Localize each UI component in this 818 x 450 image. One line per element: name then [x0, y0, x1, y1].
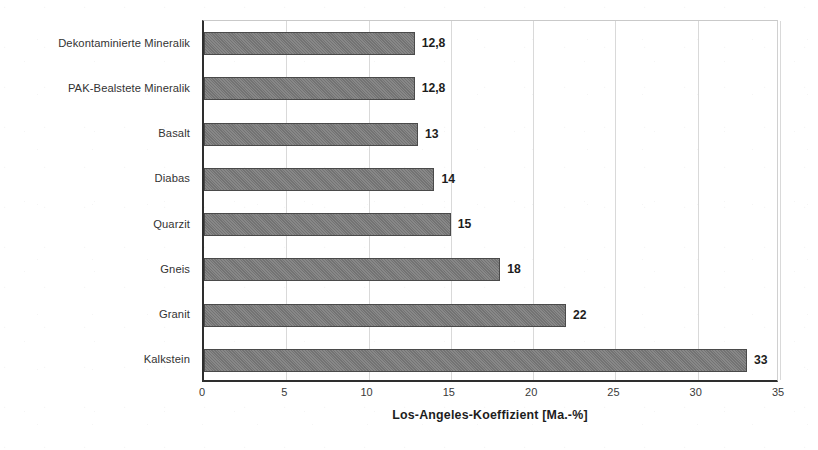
bar — [204, 123, 418, 146]
gridline — [698, 21, 699, 380]
gridline — [615, 21, 616, 380]
bar — [204, 213, 451, 236]
x-axis-tick-labels: 05101520253035 — [202, 386, 778, 404]
category-label: Quarzit — [153, 217, 190, 231]
bar-value-label: 13 — [425, 123, 439, 146]
category-label: Basalt — [158, 126, 190, 140]
bar — [204, 349, 747, 372]
category-label: PAK-Bealstete Mineralik — [68, 81, 190, 95]
x-tick-label: 35 — [772, 386, 784, 398]
bar — [204, 32, 415, 55]
bar-value-label: 33 — [754, 349, 768, 372]
category-label: Dekontaminierte Mineralik — [58, 36, 190, 50]
bar-value-label: 15 — [458, 213, 472, 236]
bar — [204, 77, 415, 100]
bar — [204, 168, 434, 191]
bar-value-label: 22 — [573, 304, 587, 327]
bar — [204, 258, 500, 281]
category-label: Kalkstein — [144, 352, 190, 366]
bar-value-label: 18 — [507, 258, 521, 281]
x-tick-label: 30 — [690, 386, 702, 398]
bar-value-label: 12,8 — [422, 77, 446, 100]
plot-area: 12,812,8131415182233 — [202, 20, 778, 382]
x-tick-label: 10 — [360, 386, 372, 398]
category-label: Gneis — [160, 262, 190, 276]
bar — [204, 304, 566, 327]
category-axis-labels: Dekontaminierte MineralikPAK-Bealstete M… — [0, 20, 196, 382]
category-label: Granit — [159, 307, 190, 321]
category-label: Diabas — [155, 171, 190, 185]
gridline — [780, 21, 781, 380]
bar-chart: Dekontaminierte MineralikPAK-Bealstete M… — [0, 0, 818, 450]
x-tick-label: 15 — [443, 386, 455, 398]
x-axis-title: Los-Angeles-Koeffizient [Ma.-%] — [202, 408, 778, 422]
x-tick-label: 25 — [607, 386, 619, 398]
x-tick-label: 5 — [281, 386, 287, 398]
x-tick-label: 0 — [199, 386, 205, 398]
bar-value-label: 12,8 — [422, 32, 446, 55]
x-tick-label: 20 — [525, 386, 537, 398]
bar-value-label: 14 — [441, 168, 455, 191]
